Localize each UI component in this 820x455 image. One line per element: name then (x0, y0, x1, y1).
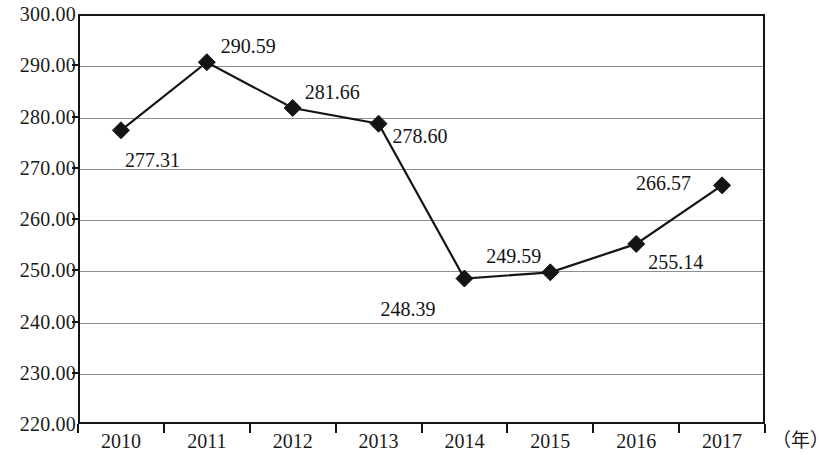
data-series (0, 0, 820, 455)
series-markers (112, 54, 730, 287)
data-point-marker (628, 235, 645, 252)
data-point-label: 248.39 (380, 299, 435, 319)
data-point-marker (370, 115, 387, 132)
data-point-marker (456, 270, 473, 287)
data-point-marker (284, 99, 301, 116)
data-point-label: 266.57 (636, 173, 691, 193)
data-point-label: 277.31 (125, 150, 180, 170)
data-point-marker (542, 264, 559, 281)
data-point-label: 290.59 (221, 36, 276, 56)
data-point-label: 255.14 (648, 252, 703, 272)
data-point-label: 249.59 (486, 246, 541, 266)
data-point-label: 281.66 (305, 82, 360, 102)
data-point-label: 278.60 (393, 126, 448, 146)
line-chart: 300.00290.00280.00270.00260.00250.00240.… (0, 0, 820, 455)
data-point-marker (714, 177, 731, 194)
